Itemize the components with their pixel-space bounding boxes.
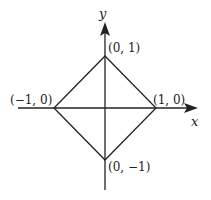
diagram-canvas: y x (0, 1) (−1, 0) (1, 0) (0, −1) [0, 0, 211, 200]
vertex-label-bottom: (0, −1) [108, 160, 150, 174]
vertex-label-right: (1, 0) [153, 93, 185, 107]
y-axis-label: y [98, 6, 107, 21]
x-axis-label: x [191, 114, 199, 129]
unit-diamond-diagram: y x (0, 1) (−1, 0) (1, 0) (0, −1) [0, 0, 211, 200]
vertex-label-top: (0, 1) [108, 41, 140, 55]
vertex-label-left: (−1, 0) [10, 93, 52, 107]
